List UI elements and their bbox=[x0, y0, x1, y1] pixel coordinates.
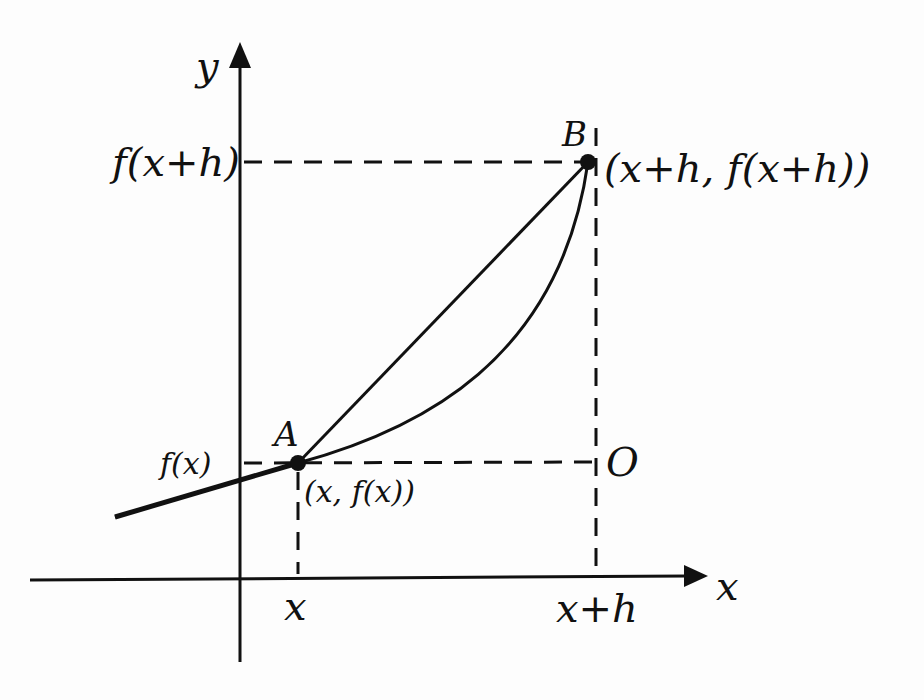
x-tick-x: x bbox=[284, 583, 307, 629]
point-b-coords: (x+h, f(x+h)) bbox=[604, 145, 870, 191]
x-axis bbox=[30, 576, 688, 580]
point-b-dot bbox=[580, 154, 596, 170]
y-axis-label: y bbox=[194, 43, 220, 89]
y-tick-f-x-plus-h: f(x+h) bbox=[109, 139, 240, 185]
guide-lines bbox=[244, 128, 596, 574]
x-axis-label: x bbox=[716, 563, 739, 609]
point-a-coords: (x, f(x)) bbox=[304, 474, 415, 509]
point-a-dot bbox=[290, 455, 306, 471]
x-axis-arrow-icon bbox=[684, 565, 708, 587]
y-axis-arrow-icon bbox=[229, 42, 251, 68]
point-o-label: O bbox=[606, 439, 639, 485]
diagram-canvas: y x f(x+h) f(x) x x+h A (x, f(x)) B (x+h… bbox=[0, 0, 924, 700]
x-tick-x-plus-h: x+h bbox=[556, 585, 638, 631]
secant-line bbox=[298, 162, 588, 463]
secant-diagram: y x f(x+h) f(x) x x+h A (x, f(x)) B (x+h… bbox=[0, 0, 924, 700]
y-tick-f-x: f(x) bbox=[158, 446, 211, 481]
point-a-label: A bbox=[271, 414, 299, 454]
point-b-label: B bbox=[561, 114, 587, 154]
